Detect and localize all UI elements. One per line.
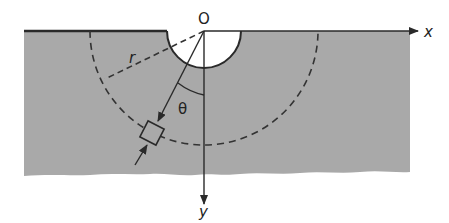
diagram-canvas: O x y r θ [0,0,449,223]
radius-label: r [129,49,136,67]
angle-label: θ [178,100,187,118]
origin-label: O [198,10,210,28]
material-region [24,31,410,176]
y-axis-label: y [198,203,209,221]
x-axis-label: x [423,23,433,41]
